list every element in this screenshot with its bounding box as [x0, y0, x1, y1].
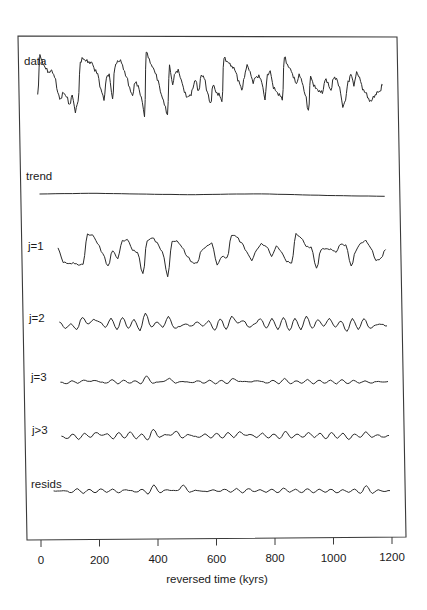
series-jgt3 [61, 429, 389, 440]
series-trend [40, 193, 385, 196]
series-data [38, 52, 383, 117]
panel-label-j1: j=1 [27, 240, 44, 252]
panel-label-resids: resids [31, 478, 62, 490]
panel-label-jgt3: j>3 [31, 424, 48, 436]
panel-label-j3: j=3 [30, 371, 47, 383]
x-tick-label: 1200 [379, 551, 405, 563]
x-axis-label: reversed time (kyrs) [166, 573, 268, 585]
series-j1 [58, 233, 386, 276]
x-tick-label: 1000 [321, 552, 347, 564]
x-tick-label: 400 [148, 553, 167, 565]
panel-label-trend: trend [26, 170, 52, 182]
x-axis: 020040060080010001200 [38, 537, 405, 566]
series-resids [54, 485, 390, 494]
x-tick-label: 200 [90, 554, 109, 566]
plot-frame [18, 36, 406, 540]
panel-label-j2: j=2 [28, 312, 45, 324]
x-tick-label: 0 [38, 554, 44, 566]
chart-figure: data trend j=1 j=2 j=3 j>3 resids 020040… [0, 0, 427, 610]
x-tick-label: 800 [265, 552, 284, 564]
series-j3 [60, 376, 388, 384]
series-j2 [59, 313, 387, 331]
x-tick-label: 600 [207, 553, 226, 565]
